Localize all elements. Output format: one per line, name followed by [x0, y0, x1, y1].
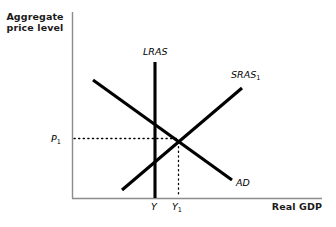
- y-axis-title: Aggregate price level: [4, 11, 66, 33]
- potential-output-tick-label: Y: [151, 201, 157, 212]
- lras-curve-label: LRAS: [143, 46, 167, 57]
- sras-curve-label: SRAS1: [231, 69, 260, 80]
- ad-curve-label: AD: [236, 177, 250, 188]
- y-axis-title-line-2: price level: [4, 22, 66, 33]
- ad-curve-label-text: AD: [236, 177, 250, 188]
- actual-output-tick-label: Y1: [172, 201, 182, 212]
- diagram-canvas: [0, 0, 336, 227]
- sras-curve-label-subscript: 1: [256, 74, 260, 82]
- potential-output-tick-text: Y: [151, 201, 157, 212]
- price-level-tick-subscript: 1: [57, 138, 61, 146]
- actual-output-tick-text: Y: [172, 201, 178, 212]
- price-level-tick-label: P1: [51, 133, 61, 144]
- y-axis-title-line-1: Aggregate: [4, 11, 66, 22]
- sras-curve-label-text: SRAS: [231, 69, 256, 80]
- lras-curve-label-text: LRAS: [143, 46, 167, 57]
- x-axis-title: Real GDP: [238, 201, 322, 212]
- actual-output-tick-subscript: 1: [178, 206, 182, 214]
- price-level-tick-text: P: [51, 133, 57, 144]
- ad-as-diagram: Aggregate price level Real GDP LRAS SRAS…: [0, 0, 336, 227]
- ad-curve: [93, 80, 232, 180]
